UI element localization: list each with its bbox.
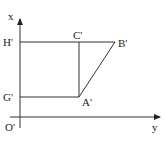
point-h-label: H' — [3, 36, 13, 48]
point-a-label: A' — [82, 96, 92, 108]
vertical-axis-label: x — [8, 10, 14, 22]
segment-a-b — [79, 42, 115, 97]
oblique-projection-diagram: x y O' H' C' B' G' A' — [0, 0, 164, 156]
horizontal-axis-label: y — [152, 121, 158, 133]
origin-label: O' — [5, 121, 15, 133]
point-c-label: C' — [73, 29, 82, 41]
point-g-label: G' — [3, 91, 13, 103]
point-b-label: B' — [118, 37, 127, 49]
